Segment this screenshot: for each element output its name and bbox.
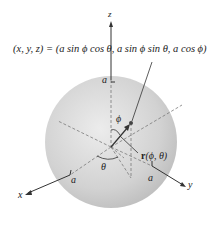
x-axis-arrowhead (25, 190, 32, 195)
diagram-graphics (0, 0, 221, 226)
equation-label: (x, y, z) = (a sin ϕ cos θ, a sin ϕ sin … (13, 44, 207, 55)
z-radius-label: a (102, 75, 107, 85)
x-axis-label: x (18, 190, 22, 200)
r-vector-label: r(ϕ, θ) (141, 151, 167, 161)
y-axis-arrowhead (180, 182, 186, 187)
z-axis-arrowhead (109, 21, 113, 27)
x-radius-label: a (71, 175, 76, 185)
y-radius-label: a (148, 173, 153, 183)
theta-label: θ (101, 162, 106, 172)
phi-label: ϕ (116, 114, 121, 124)
surface-point (129, 121, 133, 125)
z-axis-label: z (108, 10, 112, 19)
r-vector-args: (ϕ, θ) (145, 150, 167, 161)
y-axis-label: y (188, 180, 192, 190)
sphere-diagram: z (x, y, z) = (a sin ϕ cos θ, a sin ϕ si… (0, 0, 221, 226)
equation-text: (x, y, z) = (a sin ϕ cos θ, a sin ϕ sin … (13, 43, 207, 54)
